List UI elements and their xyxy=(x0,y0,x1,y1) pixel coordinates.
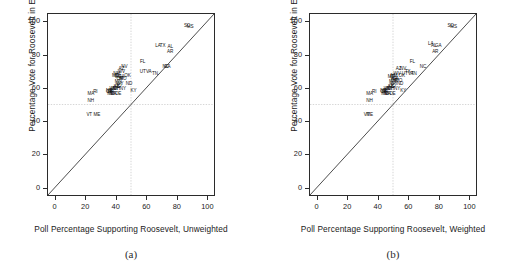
data-point-label: VA xyxy=(146,70,152,75)
data-point-label: FL xyxy=(140,60,145,65)
x-tick-mark xyxy=(116,196,117,200)
data-point-label: GA xyxy=(435,43,441,48)
y-tick-label: 100 xyxy=(280,16,302,25)
data-point-label: DE xyxy=(389,92,395,97)
y-tick-mark xyxy=(43,55,47,56)
x-tick-mark xyxy=(439,196,440,200)
y-tick-label: 60 xyxy=(280,83,302,92)
y-tick-mark xyxy=(43,88,47,89)
x-tick-mark xyxy=(55,196,56,200)
x-tick-label: 80 xyxy=(427,202,451,211)
y-tick-label: 0 xyxy=(280,183,302,192)
x-tick-mark xyxy=(347,196,348,200)
x-tick-label: 100 xyxy=(457,202,481,211)
x-tick-mark xyxy=(177,196,178,200)
data-point-label: MS xyxy=(187,25,194,30)
x-tick-mark xyxy=(408,196,409,200)
x-tick-mark xyxy=(317,196,318,200)
x-tick-label: 0 xyxy=(43,202,67,211)
plot-lines-a xyxy=(48,14,214,195)
data-point-label: ME xyxy=(94,113,101,118)
data-point-label: KY xyxy=(400,88,406,93)
y-tick-label: 20 xyxy=(18,149,40,158)
data-point-label: NH xyxy=(366,98,372,103)
panel-b: Percentage Vote for Roosevelt in Electio… xyxy=(262,0,524,274)
plot-area-b: SCMSLAALGAARFLNCAZNVTXVATNUTWVNMOKMTIDWA… xyxy=(309,13,477,196)
x-tick-mark xyxy=(378,196,379,200)
y-tick-mark xyxy=(305,121,309,122)
y-tick-mark xyxy=(305,55,309,56)
plot-area-a: SCMSLATXALARGANCFLUTVATNNVAZWVNMMTIDOKWA… xyxy=(47,13,215,196)
data-point-label: UT xyxy=(140,70,146,75)
data-point-label: CT xyxy=(380,90,386,95)
x-tick-mark xyxy=(207,196,208,200)
y-tick-mark xyxy=(305,154,309,155)
x-axis-label-a: Poll Percentage Supporting Roosevelt, Un… xyxy=(0,224,262,234)
data-point-label: ND xyxy=(126,82,132,87)
x-tick-label: 40 xyxy=(104,202,128,211)
x-tick-label: 60 xyxy=(134,202,158,211)
panel-caption-a: (a) xyxy=(0,248,262,260)
data-point-label: MA xyxy=(366,92,373,97)
y-tick-label: 80 xyxy=(18,50,40,59)
data-point-label: NC xyxy=(162,65,168,70)
x-tick-label: 0 xyxy=(305,202,329,211)
x-tick-label: 60 xyxy=(396,202,420,211)
data-point-label: CT xyxy=(106,90,112,95)
x-tick-mark xyxy=(146,196,147,200)
data-point-label: KY xyxy=(131,88,137,93)
figure-two-panel-scatter: Percentage Vote for Roosevelt in Electio… xyxy=(0,0,524,274)
data-point-label: NC xyxy=(420,65,426,70)
plot-lines-b xyxy=(310,14,476,195)
y-tick-mark xyxy=(305,21,309,22)
panel-a: Percentage Vote for Roosevelt in Electio… xyxy=(0,0,262,274)
panel-caption-b: (b) xyxy=(262,248,524,260)
data-point-label: TX xyxy=(160,43,166,48)
y-tick-label: 20 xyxy=(280,149,302,158)
data-point-label: NH xyxy=(88,98,94,103)
data-point-label: TN xyxy=(411,72,417,77)
y-tick-label: 60 xyxy=(18,83,40,92)
y-tick-label: 100 xyxy=(18,16,40,25)
y-tick-mark xyxy=(43,21,47,22)
data-point-label: DE xyxy=(115,92,121,97)
y-tick-label: 0 xyxy=(18,183,40,192)
data-point-label: ME xyxy=(366,113,373,118)
y-tick-mark xyxy=(305,188,309,189)
y-tick-mark xyxy=(305,88,309,89)
data-point-label: VT xyxy=(86,113,92,118)
data-point-label: MS xyxy=(450,25,457,30)
x-tick-mark xyxy=(85,196,86,200)
y-tick-mark xyxy=(43,121,47,122)
x-tick-label: 20 xyxy=(73,202,97,211)
y-tick-label: 40 xyxy=(280,116,302,125)
x-axis-label-b: Poll Percentage Supporting Roosevelt, We… xyxy=(262,224,524,234)
data-point-label: AR xyxy=(167,50,173,55)
data-point-label: FL xyxy=(410,60,415,65)
y-tick-mark xyxy=(43,154,47,155)
data-point-label: TN xyxy=(152,72,158,77)
data-point-label: RI xyxy=(93,90,97,95)
x-tick-label: 80 xyxy=(165,202,189,211)
y-tick-label: 40 xyxy=(18,116,40,125)
x-tick-mark xyxy=(469,196,470,200)
y-tick-label: 80 xyxy=(280,50,302,59)
x-tick-label: 40 xyxy=(366,202,390,211)
x-tick-label: 100 xyxy=(195,202,219,211)
y-tick-mark xyxy=(43,188,47,189)
x-tick-label: 20 xyxy=(335,202,359,211)
data-point-label: AR xyxy=(432,50,438,55)
